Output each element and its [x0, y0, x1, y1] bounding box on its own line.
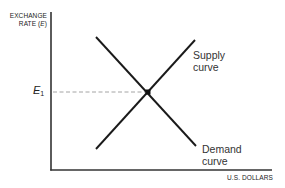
y-axis-label: EXCHANGE RATE (E) [10, 12, 47, 28]
demand-curve-label: Demand curve [202, 143, 242, 167]
x-axis-label: U.S. DOLLARS [227, 174, 273, 181]
y-label-suffix: ) [45, 20, 47, 27]
equilibrium-label: E1 [33, 84, 44, 97]
supply-curve-label: Supply curve [193, 49, 225, 73]
y-axis-label-line2: RATE (E) [10, 20, 47, 28]
y-label-prefix: RATE ( [19, 20, 40, 27]
supply-label-line1: Supply [193, 49, 225, 61]
equilibrium-subscript: 1 [40, 90, 44, 97]
supply-label-line2: curve [193, 61, 225, 73]
y-axis-label-line1: EXCHANGE [10, 12, 47, 20]
demand-label-line2: curve [202, 155, 242, 167]
demand-label-line1: Demand [202, 143, 242, 155]
equilibrium-point [146, 90, 151, 95]
